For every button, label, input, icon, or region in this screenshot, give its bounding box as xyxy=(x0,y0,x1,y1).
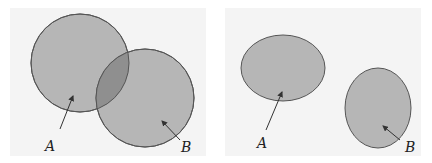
label-a: A xyxy=(255,135,267,151)
label-b: B xyxy=(180,139,191,155)
label-a: A xyxy=(43,138,55,154)
set-b-ellipse xyxy=(345,68,411,148)
set-a-ellipse xyxy=(241,35,325,101)
disjoint-sets-panel: A B xyxy=(225,8,421,156)
overlapping-sets-panel: A B xyxy=(10,8,206,156)
label-b: B xyxy=(404,139,415,155)
venn-diagram: A B A B xyxy=(0,0,432,163)
